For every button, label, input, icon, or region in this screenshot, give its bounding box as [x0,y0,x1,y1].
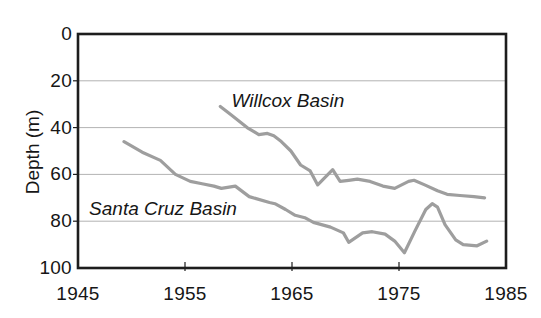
series-line-willcox-basin [220,107,484,198]
y-axis-tick-label: 80 [50,210,72,232]
x-axis-tick-label: 1965 [270,283,313,305]
series-label-santa-cruz-basin: Santa Cruz Basin [89,198,237,220]
x-axis-tick-label: 1985 [484,283,527,305]
series-label-willcox-basin: Willcox Basin [232,90,345,112]
x-axis-tick-label: 1975 [377,283,420,305]
y-axis-tick-label: 0 [61,23,72,45]
y-axis-tick-label: 40 [50,117,72,139]
y-axis-tick-label: 20 [50,70,72,92]
y-axis-tick-label: 60 [50,163,72,185]
y-axis-tick-label: 100 [39,257,72,279]
plot-area [0,0,541,318]
x-axis-tick-label: 1945 [56,283,99,305]
x-axis-tick-label: 1955 [163,283,206,305]
groundwater-depth-chart: Depth (m) Willcox Basin Santa Cruz Basin… [0,0,541,318]
y-axis-title: Depth (m) [22,110,44,194]
